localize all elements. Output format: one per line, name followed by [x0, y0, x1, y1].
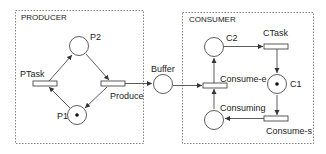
transition-produce	[101, 81, 125, 86]
label-c1: C1	[290, 79, 302, 89]
label-p1: P1	[57, 111, 68, 121]
transition-consume-s	[264, 116, 288, 121]
place-consuming	[205, 111, 224, 130]
consumer-label: CONSUMER	[189, 15, 236, 24]
label-consume-e: Consume-e	[220, 74, 267, 84]
label-produce: Produce	[110, 91, 144, 101]
label-consuming: Consuming	[220, 103, 266, 113]
token-p1	[75, 113, 79, 117]
label-buffer: Buffer	[151, 64, 175, 74]
arc-p1-ptask	[49, 87, 70, 108]
arc-p2-produce	[86, 54, 109, 80]
place-p2	[70, 37, 89, 56]
arc-ptask-p2	[49, 55, 72, 81]
label-ctask: CTask	[263, 28, 289, 38]
label-consume-s: Consume-s	[266, 126, 313, 136]
transition-ctask	[264, 44, 288, 49]
arc-produce-p1	[85, 87, 107, 108]
label-p2: P2	[90, 32, 101, 42]
token-c1	[275, 82, 279, 86]
label-ptask: PTask	[20, 69, 45, 79]
label-c2: C2	[226, 33, 238, 43]
place-buffer	[154, 75, 173, 94]
transition-ptask	[33, 81, 57, 86]
place-c2	[205, 38, 224, 57]
producer-label: PRODUCER	[21, 13, 67, 22]
petri-net-diagram: PRODUCER CONSUMER	[0, 0, 326, 154]
